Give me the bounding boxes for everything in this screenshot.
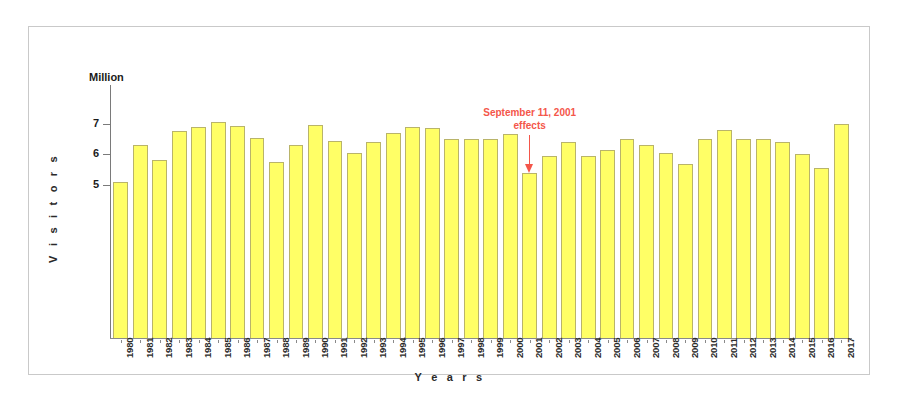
bar <box>678 164 693 338</box>
x-axis-year-label: 1983 <box>183 338 194 358</box>
x-axis-year-label: 1984 <box>202 338 213 358</box>
bar <box>659 153 674 338</box>
bar <box>211 122 226 338</box>
bar <box>600 150 615 338</box>
x-axis-year-label: 1994 <box>397 338 408 358</box>
x-axis-tick <box>588 340 589 343</box>
x-axis-tick <box>763 340 764 343</box>
x-axis-tick <box>374 340 375 343</box>
x-axis-tick <box>160 340 161 343</box>
x-axis-tick <box>199 340 200 343</box>
x-axis-year-label: 2012 <box>747 338 758 358</box>
bar <box>736 139 751 338</box>
x-axis-year-label: 2013 <box>767 338 778 358</box>
x-axis-year-label: 1987 <box>261 338 272 358</box>
x-axis-year-label: 1990 <box>319 338 330 358</box>
x-axis-year-label: 1995 <box>416 338 427 358</box>
y-axis-tick-label: 7 <box>81 117 99 129</box>
bar <box>717 130 732 338</box>
x-axis-year-label: 2008 <box>670 338 681 358</box>
bar <box>289 145 304 338</box>
bar <box>425 128 440 338</box>
bar <box>308 125 323 338</box>
y-axis-tick <box>103 154 111 155</box>
x-axis-tick <box>491 340 492 343</box>
bar <box>620 139 635 338</box>
x-axis-tick <box>471 340 472 343</box>
x-axis-tick <box>705 340 706 343</box>
x-axis-year-label: 2005 <box>611 338 622 358</box>
x-axis-year-label: 2009 <box>689 338 700 358</box>
x-axis-year-label: 1986 <box>241 338 252 358</box>
bar <box>269 162 284 338</box>
x-axis-year-label: 1997 <box>455 338 466 358</box>
x-axis-year-label: 2002 <box>553 338 564 358</box>
x-axis-tick <box>549 340 550 343</box>
y-axis-tick-label: 6 <box>81 147 99 159</box>
x-axis-tick <box>257 340 258 343</box>
x-axis-year-label: 1982 <box>163 338 174 358</box>
x-axis-year-label: 1999 <box>494 338 505 358</box>
bar <box>834 124 849 338</box>
bars-layer <box>111 87 851 338</box>
x-axis-tick <box>666 340 667 343</box>
x-axis-tick <box>822 340 823 343</box>
x-axis-tick <box>841 340 842 343</box>
x-axis-year-label: 2007 <box>650 338 661 358</box>
x-axis-tick <box>685 340 686 343</box>
x-axis-year-label: 2011 <box>728 338 739 358</box>
x-axis-tick <box>140 340 141 343</box>
x-axis-tick <box>315 340 316 343</box>
x-axis-year-label: 1993 <box>377 338 388 358</box>
bar <box>444 139 459 338</box>
x-axis-year-label: 1989 <box>300 338 311 358</box>
bar <box>775 142 790 338</box>
bar <box>795 154 810 338</box>
x-axis-tick <box>179 340 180 343</box>
x-axis-year-label: 2006 <box>631 338 642 358</box>
x-axis-tick <box>608 340 609 343</box>
x-axis-year-label: 2010 <box>708 338 719 358</box>
bar <box>152 160 167 338</box>
x-axis-year-label: 1996 <box>436 338 447 358</box>
x-axis-year-label: 2000 <box>514 338 525 358</box>
y-axis-title: V i s i t o r s <box>47 148 59 268</box>
bar <box>522 173 537 338</box>
y-axis-tick <box>103 185 111 186</box>
x-axis-tick <box>802 340 803 343</box>
bar <box>561 142 576 338</box>
x-axis-tick <box>724 340 725 343</box>
x-axis-tick <box>413 340 414 343</box>
x-axis-tick <box>432 340 433 343</box>
bar <box>191 127 206 338</box>
figure-frame: Million V i s i t o r s Y e a r s 567 19… <box>28 26 870 375</box>
x-axis-tick <box>627 340 628 343</box>
x-axis-tick <box>569 340 570 343</box>
x-axis-tick <box>296 340 297 343</box>
x-axis-tick <box>510 340 511 343</box>
x-axis-tick <box>277 340 278 343</box>
bar <box>542 156 557 338</box>
x-axis-year-label: 1985 <box>222 338 233 358</box>
x-axis-tick <box>783 340 784 343</box>
x-axis-year-label: 2015 <box>806 338 817 358</box>
bar <box>328 141 343 338</box>
bar <box>698 139 713 338</box>
x-axis-tick <box>393 340 394 343</box>
y-axis-unit-label: Million <box>89 71 124 83</box>
bar <box>386 133 401 338</box>
bar <box>503 134 518 338</box>
bar <box>756 139 771 338</box>
x-axis-tick <box>647 340 648 343</box>
bar <box>405 127 420 338</box>
x-axis-year-label: 2001 <box>533 338 544 358</box>
bar <box>581 156 596 338</box>
x-axis-tick <box>530 340 531 343</box>
x-axis-year-label: 1981 <box>144 338 155 358</box>
x-axis-year-label: 1988 <box>280 338 291 358</box>
x-axis-tick <box>218 340 219 343</box>
x-axis-year-label: 2017 <box>845 338 856 358</box>
bar <box>464 139 479 338</box>
x-axis-year-label: 2014 <box>786 338 797 358</box>
x-axis-tick <box>354 340 355 343</box>
